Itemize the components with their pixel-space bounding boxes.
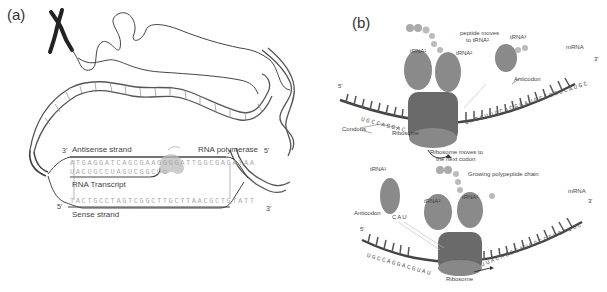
- sense-strand-label: Sense strand: [72, 210, 119, 219]
- trna3-bottom-label: tRNA³: [462, 194, 478, 200]
- transcript-sequence: UACUGCCUAGUCGGCUU: [70, 168, 169, 176]
- trna2-bottom-label: tRNA²: [424, 198, 440, 204]
- ribosome-bottom-label: Ribosome: [446, 276, 473, 282]
- dna-helix-left: [30, 150, 48, 176]
- chromosome-icon: [50, 10, 72, 52]
- trna1-top-label: tRNA¹: [410, 48, 426, 54]
- anticodon-bottom-seq: CAU: [392, 214, 408, 220]
- peptide-moves-label: peptide moves: [460, 30, 499, 36]
- trna2-top-label: tRNA²: [456, 50, 472, 56]
- sense-3-label: 3': [266, 205, 271, 212]
- ribosome-moves-label: Ribosome moves to: [430, 149, 483, 155]
- panel-b-label: (b): [352, 14, 370, 31]
- trna3-top-label: tRNA³: [510, 34, 526, 40]
- mrna-bottom-3-label: 3': [588, 198, 592, 204]
- mrna-bottom-label: mRNA: [568, 188, 586, 194]
- ribosome-moves-label-2: the next codon: [436, 156, 475, 162]
- trna1-bottom-label: tRNA¹: [370, 166, 386, 172]
- growing-chain-label: Growing polypeptide chain: [468, 171, 539, 177]
- ribosome-top: [408, 92, 458, 148]
- anticodon-bottom-label: Anticodon: [354, 210, 381, 216]
- ribosome-bottom: [438, 232, 482, 276]
- antisense-strand-label: Antisense strand: [72, 145, 132, 154]
- mrna-top-5-label: 5': [338, 83, 342, 89]
- antisense-3-label: 3': [62, 147, 67, 154]
- antisense-5-label: 5': [264, 147, 269, 154]
- sense-sequence: TACTGCCTAGTCGGCTTGCTTAACGCTGTATT: [70, 197, 256, 205]
- sense-5-label: 5': [57, 203, 62, 210]
- mrna-top-label: mRNA: [566, 44, 584, 50]
- antisense-sequence: ATGAGGATCAGCGAAGGGGATTGGCGACATAA: [70, 159, 256, 167]
- dna-helix-top: [30, 74, 272, 152]
- mrna-top-3-label: 3': [594, 56, 598, 62]
- codons-label: Condons: [342, 126, 366, 132]
- ribosome-top-label: Ribosome: [392, 130, 419, 136]
- anticodon-top-label: Anticodon: [514, 76, 541, 82]
- rna-transcript-label: RNA Transcript: [72, 180, 126, 189]
- peptide-moves-label-2: to tRNA²: [466, 37, 489, 43]
- rna-polymerase-label: RNA polymerase: [198, 145, 258, 154]
- mrna-bottom-5-label: 5': [360, 226, 364, 232]
